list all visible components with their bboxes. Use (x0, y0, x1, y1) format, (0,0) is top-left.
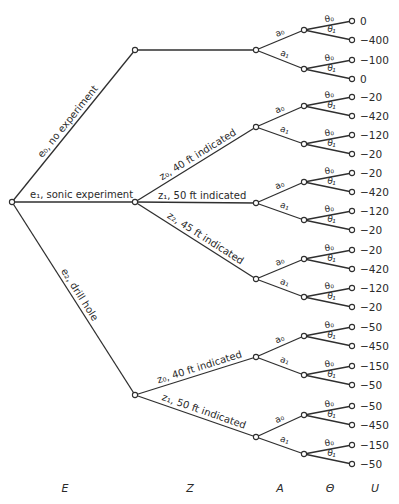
label-state: θ₁ (326, 137, 337, 149)
action-node (301, 333, 306, 338)
label-e1: e₁, sonic experiment (30, 189, 133, 200)
label-action: a₀ (273, 412, 286, 425)
label-state: θ₁ (326, 447, 337, 459)
action-node (301, 103, 306, 108)
utility-value: −450 (360, 419, 389, 431)
label-state: θ₁ (326, 368, 337, 380)
axis-label-E: E (62, 482, 69, 495)
action-node (301, 179, 306, 184)
utility-value: −420 (360, 186, 389, 198)
utility-value: −50 (360, 321, 382, 333)
leaf-node (349, 304, 354, 309)
label-action: a₀ (273, 332, 286, 345)
experiment-node-e0 (132, 47, 137, 52)
label-action: a₁ (279, 124, 291, 137)
edge-e1-z1 (135, 202, 256, 203)
leaf-node (349, 170, 354, 175)
utility-value: −20 (360, 91, 382, 103)
leaf-node (349, 363, 354, 368)
utility-value: −50 (360, 379, 382, 391)
outcome-node-e1-z0 (253, 124, 258, 129)
leaf-node (349, 343, 354, 348)
utility-value: −50 (360, 458, 382, 470)
leaf-node (349, 18, 354, 23)
leaf-node (349, 285, 354, 290)
utility-value: −420 (360, 110, 389, 122)
label-action: a₀ (273, 178, 286, 191)
edge-e2 (12, 202, 135, 395)
action-node (301, 451, 306, 456)
utility-value: −20 (360, 224, 382, 236)
leaf-node (349, 422, 354, 427)
leaf-node (349, 324, 354, 329)
utility-value: −120 (360, 205, 389, 217)
utility-value: −150 (360, 360, 389, 372)
label-state: θ₁ (326, 252, 337, 264)
utility-value: −120 (360, 129, 389, 141)
action-node (301, 372, 306, 377)
label-e1-z2: z₂, 45 ft indicated (165, 210, 245, 267)
utility-value: −450 (360, 340, 389, 352)
leaf-node (349, 94, 354, 99)
leaf-node (349, 442, 354, 447)
action-node (301, 27, 306, 32)
utility-value: −50 (360, 400, 382, 412)
label-state: θ₁ (326, 213, 337, 225)
utility-value: −20 (360, 148, 382, 160)
label-state: θ₁ (326, 99, 337, 111)
leaf-node (349, 76, 354, 81)
label-e1-z1: z₁, 50 ft indicated (158, 190, 246, 201)
action-node (301, 256, 306, 261)
utility-values: 0−400−1000−20−420−120−20−20−420−120−20−2… (360, 15, 389, 470)
outcome-node-e2-z1 (253, 434, 258, 439)
utility-value: −20 (360, 301, 382, 313)
leaf-node (349, 403, 354, 408)
label-e1-z0: z₀, 40 ft indicated (157, 126, 238, 182)
label-e2-z1: z₁, 50 ft indicated (161, 391, 248, 430)
label-action: a₁ (279, 200, 291, 213)
utility-value: 0 (360, 73, 367, 85)
label-state: θ₁ (326, 408, 337, 420)
leaf-node (349, 382, 354, 387)
axis-label-U: U (371, 482, 379, 495)
leaf-node (349, 151, 354, 156)
label-e2-z0: z₀, 40 ft indicated (156, 348, 244, 385)
utility-value: −20 (360, 244, 382, 256)
label-action: a₁ (279, 48, 292, 61)
decision-tree-diagram: e₀, no experimenta₀θ₀θ₁a₁θ₀θ₁e₁, sonic e… (0, 0, 399, 504)
label-state: θ₁ (326, 62, 337, 74)
outcome-node-e1-z2 (253, 276, 258, 281)
utility-value: 0 (360, 15, 367, 27)
action-node (301, 66, 306, 71)
edge-e1-z2 (135, 202, 256, 279)
label-action: a₁ (279, 354, 291, 367)
tree-edge-labels: e₀, no experimenta₀θ₀θ₁a₁θ₀θ₁e₁, sonic e… (30, 13, 338, 459)
label-e2: e₂, drill hole (59, 266, 100, 322)
label-state: θ₁ (326, 175, 337, 187)
root-decision-node (9, 199, 14, 204)
leaf-node (349, 57, 354, 62)
leaf-node (349, 132, 354, 137)
label-action: a₁ (279, 434, 291, 447)
leaf-node (349, 247, 354, 252)
label-action: a₀ (274, 255, 287, 268)
experiment-node-e1 (132, 199, 137, 204)
label-action: a₀ (274, 26, 287, 39)
utility-value: −100 (360, 54, 389, 66)
label-e0: e₀, no experiment (35, 83, 100, 160)
axis-label-A: A (275, 482, 284, 495)
utility-value: −400 (360, 34, 389, 46)
leaf-node (349, 113, 354, 118)
leaf-node (349, 189, 354, 194)
leaf-node (349, 37, 354, 42)
label-action: a₀ (273, 102, 286, 115)
leaf-node (349, 266, 354, 271)
edge-e0 (12, 50, 135, 202)
axis-label-Θ: Θ (326, 482, 335, 495)
utility-value: −20 (360, 167, 382, 179)
experiment-node-e2 (132, 392, 137, 397)
outcome-node-e0-none (253, 47, 258, 52)
utility-value: −120 (360, 282, 389, 294)
leaf-node (349, 461, 354, 466)
action-node (301, 294, 306, 299)
